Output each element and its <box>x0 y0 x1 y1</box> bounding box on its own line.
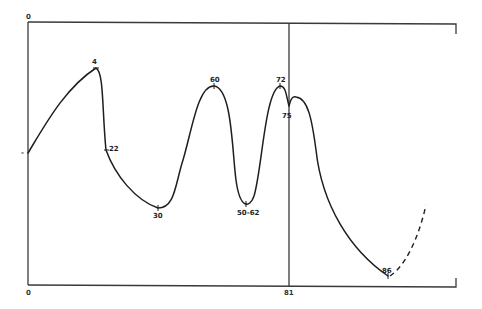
label-86: 86 <box>382 267 392 275</box>
label-50-62: 50-62 <box>237 209 260 217</box>
label-22: 22 <box>109 145 119 153</box>
frame-bottom-axis <box>28 278 456 287</box>
label-30: 30 <box>153 212 163 220</box>
trend-curve <box>28 68 388 276</box>
frame-top-axis <box>28 22 456 34</box>
line-chart: 0 0 81 - 4 22 30 60 50-62 72 75 86 <box>0 0 482 309</box>
x-marker-label: 81 <box>284 289 294 297</box>
bottom-left-label: 0 <box>26 289 31 297</box>
label-60: 60 <box>210 76 220 84</box>
label-72: 72 <box>276 76 286 84</box>
left-tick-mark: - <box>21 149 24 157</box>
projection-curve <box>390 205 426 276</box>
top-left-label: 0 <box>26 13 31 21</box>
label-4: 4 <box>92 58 97 66</box>
label-75: 75 <box>282 112 292 120</box>
